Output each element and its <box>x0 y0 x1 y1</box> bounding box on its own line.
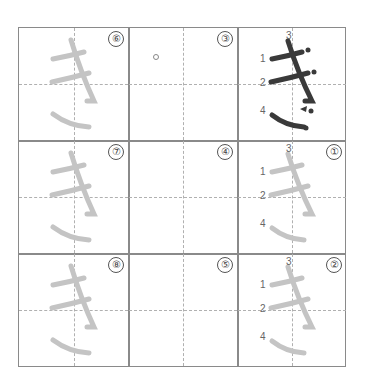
practice-cell-4[interactable]: ④ <box>129 141 237 253</box>
guide-line-horizontal <box>129 197 237 198</box>
stroke-number: 2 <box>260 77 266 88</box>
stroke-number: 4 <box>260 105 266 116</box>
stroke-number: 4 <box>260 218 266 229</box>
model-character-ki <box>238 28 346 140</box>
cell-index-badge: ② <box>326 257 342 273</box>
practice-cell-1[interactable]: 3 1 2 4 ① <box>238 141 346 253</box>
guide-line-horizontal <box>129 84 237 85</box>
cell-index-badge: ⑥ <box>108 31 124 47</box>
stroke-number: 1 <box>260 53 266 64</box>
stroke-number: 2 <box>260 190 266 201</box>
practice-cell-3[interactable]: ③ <box>129 28 237 140</box>
practice-cell-7[interactable]: ⑦ <box>19 141 128 253</box>
guide-line-horizontal <box>129 310 237 311</box>
cell-index-badge: ⑧ <box>108 257 124 273</box>
stroke-number: 4 <box>260 331 266 342</box>
cell-index-badge: ④ <box>217 144 233 160</box>
stroke-number: 3 <box>286 143 292 154</box>
cell-index-badge: ⑦ <box>108 144 124 160</box>
practice-cell-8[interactable]: ⑧ <box>19 254 128 366</box>
practice-cell-6[interactable]: ⑥ <box>19 28 128 140</box>
stroke-number: 1 <box>260 279 266 290</box>
cell-index-badge: ① <box>326 144 342 160</box>
model-cell: 3 1 2 4 <box>238 28 346 140</box>
cell-index-badge: ⑤ <box>217 257 233 273</box>
small-circle-mark <box>153 54 159 60</box>
stroke-number: 3 <box>286 30 292 41</box>
practice-cell-2[interactable]: 3 1 2 4 ② <box>238 254 346 366</box>
cell-index-badge: ③ <box>217 31 233 47</box>
stroke-number: 1 <box>260 166 266 177</box>
stroke-number: 2 <box>260 303 266 314</box>
practice-cell-5[interactable]: ⑤ <box>129 254 237 366</box>
writing-practice-grid: ⑥ ③ 3 1 2 4 <box>18 27 346 367</box>
stroke-number: 3 <box>286 256 292 267</box>
